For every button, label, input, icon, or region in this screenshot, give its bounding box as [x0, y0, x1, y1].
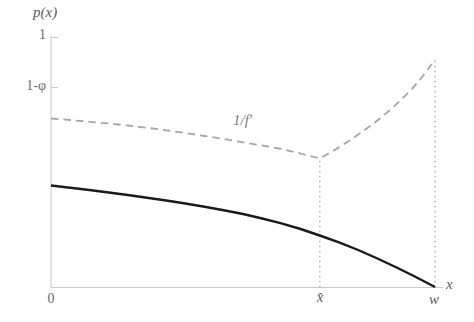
y-axis-title: p(x) — [33, 4, 57, 21]
solid-curve — [51, 186, 435, 288]
y-tick-label-1: 1 — [26, 27, 46, 42]
x-axis-title: x — [446, 276, 453, 293]
plot-canvas — [0, 0, 474, 322]
curve-label-inverse-f-prime: 1/f′ — [233, 112, 252, 129]
dashed-curve — [51, 60, 435, 159]
x-tick-label-xhat: x̂ — [308, 289, 332, 306]
x-tick-label-0: 0 — [43, 291, 59, 306]
probability-plot-figure: p(x) 1 1-φ 0 x̂ w x 1/f′ — [0, 0, 474, 322]
y-tick-label-1-minus-phi: 1-φ — [8, 78, 46, 93]
x-tick-label-w: w — [423, 291, 445, 308]
